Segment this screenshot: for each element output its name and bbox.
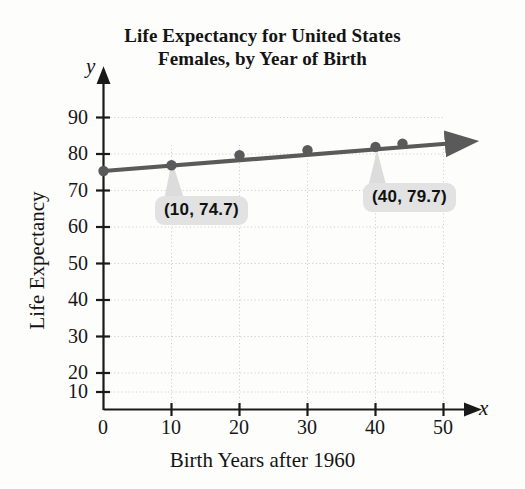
- data-point: [98, 166, 108, 176]
- data-point: [166, 160, 176, 170]
- trend-line: [104, 144, 450, 172]
- annotation-callout-point-40: (40, 79.7): [363, 183, 456, 212]
- chart-page: Life Expectancy for United States Female…: [0, 0, 525, 489]
- x-tick-label-10: 10: [148, 416, 194, 439]
- data-point: [234, 150, 244, 160]
- y-tick-label-10: 10: [42, 380, 88, 403]
- x-tick-label-30: 30: [284, 416, 330, 439]
- data-point: [397, 138, 407, 148]
- x-tick-label-0: 0: [80, 416, 126, 439]
- y-tick-label-90: 90: [42, 106, 88, 129]
- y-tick-label-80: 80: [42, 142, 88, 165]
- x-tick-label-40: 40: [352, 416, 398, 439]
- y-axis-title: Life Expectancy: [25, 166, 50, 356]
- data-point: [370, 142, 380, 152]
- x-tick-label-50: 50: [420, 416, 466, 439]
- x-axis-variable-label: x: [479, 396, 488, 421]
- data-point: [302, 145, 312, 155]
- x-tick-label-20: 20: [216, 416, 262, 439]
- y-axis-variable-label: y: [86, 54, 95, 79]
- x-axis-title: Birth Years after 1960: [0, 448, 525, 473]
- annotation-callout-point-10: (10, 74.7): [155, 196, 248, 225]
